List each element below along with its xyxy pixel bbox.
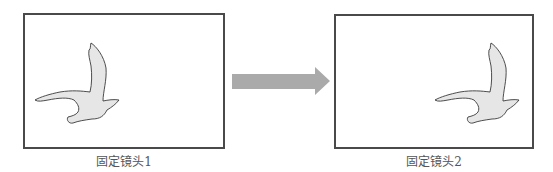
bird-icon-shot-2 (435, 43, 519, 123)
arrow-right-icon (232, 67, 330, 95)
bird-icon-shot-1 (35, 43, 119, 123)
caption-shot-1: 固定镜头1 (64, 152, 184, 169)
caption-shot-2: 固定镜头2 (374, 152, 494, 169)
diagram-graphics (0, 0, 553, 172)
